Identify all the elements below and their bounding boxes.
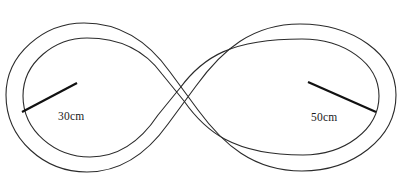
right-radius-line xyxy=(308,82,376,112)
left-radius-label: 30cm xyxy=(58,110,84,122)
inner-track-outline xyxy=(23,38,379,157)
left-radius-line xyxy=(22,83,77,112)
right-radius-label: 50cm xyxy=(311,111,337,123)
figure-eight-diagram: 30cm 50cm xyxy=(0,0,403,185)
